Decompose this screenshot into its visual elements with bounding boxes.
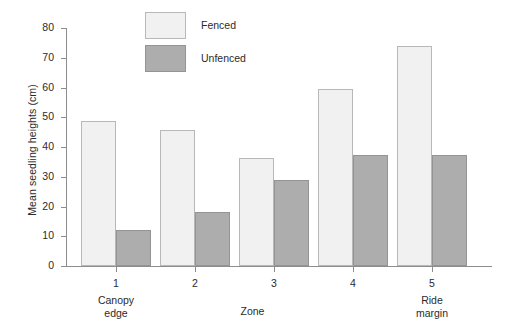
bar-fenced-zone1 xyxy=(81,121,116,266)
y-tick xyxy=(61,177,66,178)
y-tick-label: 20 xyxy=(14,200,54,212)
y-tick-label: 10 xyxy=(14,229,54,241)
y-tick-label: 80 xyxy=(14,21,54,33)
bar-fenced-zone3 xyxy=(239,158,274,266)
legend-swatch-fenced xyxy=(145,12,186,39)
y-tick xyxy=(61,117,66,118)
bar-fenced-zone2 xyxy=(160,130,195,266)
y-tick xyxy=(61,58,66,59)
bar-unfenced-zone2 xyxy=(195,212,230,266)
legend-swatch-unfenced xyxy=(145,45,186,72)
x-tick-label: 3 xyxy=(244,277,304,289)
bar-unfenced-zone1 xyxy=(116,230,151,266)
bar-fenced-zone4 xyxy=(318,89,353,266)
y-tick xyxy=(61,266,66,267)
x-tick xyxy=(195,266,196,272)
x-tick-label: 2 xyxy=(165,277,225,289)
bar-unfenced-zone3 xyxy=(274,180,309,266)
y-tick-label: 0 xyxy=(14,259,54,271)
y-tick xyxy=(61,207,66,208)
x-tick-label: 5 xyxy=(402,277,462,289)
bar-chart: Mean seedling heights (cm) Zone 01020304… xyxy=(0,0,505,335)
legend-label-fenced: Fenced xyxy=(201,19,236,31)
bar-fenced-zone5 xyxy=(397,46,432,266)
x-tick xyxy=(432,266,433,272)
x-tick-label: 4 xyxy=(323,277,383,289)
y-axis-line xyxy=(66,28,67,267)
y-tick-label: 60 xyxy=(14,81,54,93)
plot-area: 01020304050607080 1Canopyedge2345Ridemar… xyxy=(66,28,491,266)
y-tick-label: 30 xyxy=(14,170,54,182)
y-tick xyxy=(61,88,66,89)
legend-label-unfenced: Unfenced xyxy=(201,52,246,64)
x-tick-label: 1 xyxy=(86,277,146,289)
y-tick xyxy=(61,28,66,29)
x-tick-sublabel: Canopyedge xyxy=(81,294,151,319)
x-tick xyxy=(353,266,354,272)
bar-unfenced-zone4 xyxy=(353,155,388,266)
x-tick-sublabel: Ridemargin xyxy=(397,294,467,319)
bar-unfenced-zone5 xyxy=(432,155,467,266)
y-tick-label: 70 xyxy=(14,51,54,63)
y-tick xyxy=(61,236,66,237)
x-tick xyxy=(274,266,275,272)
x-tick xyxy=(116,266,117,272)
y-tick-label: 40 xyxy=(14,140,54,152)
y-tick xyxy=(61,147,66,148)
y-tick-label: 50 xyxy=(14,110,54,122)
x-axis-line xyxy=(66,266,492,267)
